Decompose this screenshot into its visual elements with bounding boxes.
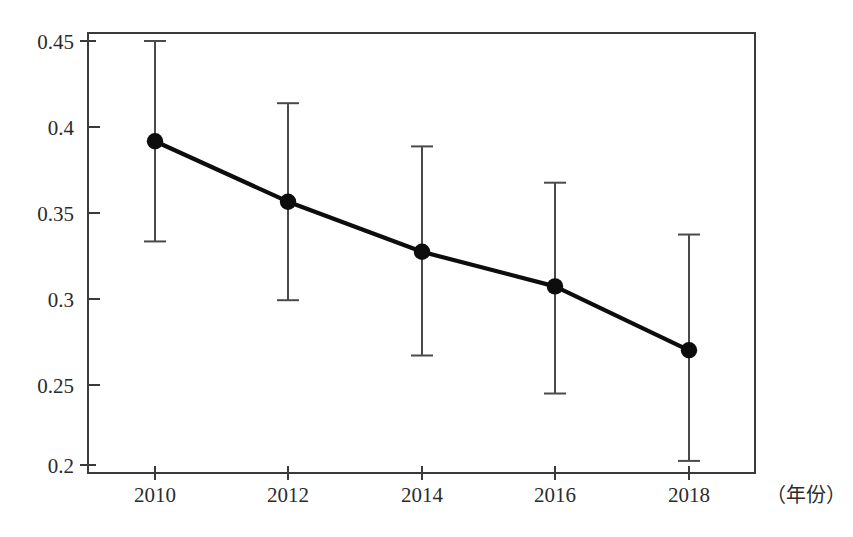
data-point-marker xyxy=(280,194,296,210)
chart-background xyxy=(0,0,853,537)
data-point-marker xyxy=(147,133,163,149)
x-tick-label-1: 2012 xyxy=(267,483,309,507)
y-tick-label-4: 0.25 xyxy=(37,374,74,398)
y-tick-label-2: 0.35 xyxy=(37,202,74,226)
data-point-marker xyxy=(414,244,430,260)
line-chart-with-error-bars: 0.45 0.4 0.35 0.3 0.25 0.2 2010 2012 201… xyxy=(0,0,853,537)
data-point-marker xyxy=(681,342,697,358)
x-tick-label-3: 2016 xyxy=(534,483,576,507)
x-tick-label-4: 2018 xyxy=(668,483,710,507)
y-tick-label-3: 0.3 xyxy=(48,288,74,312)
y-tick-label-1: 0.4 xyxy=(48,116,75,140)
y-tick-label-5: 0.2 xyxy=(48,454,74,478)
data-point-marker xyxy=(547,278,563,294)
x-axis-caption: （年份） xyxy=(766,484,846,506)
x-tick-label-2: 2014 xyxy=(401,483,444,507)
y-tick-label-0: 0.45 xyxy=(37,30,74,54)
x-tick-label-0: 2010 xyxy=(134,483,176,507)
chart-figure: 0.45 0.4 0.35 0.3 0.25 0.2 2010 2012 201… xyxy=(0,0,853,537)
